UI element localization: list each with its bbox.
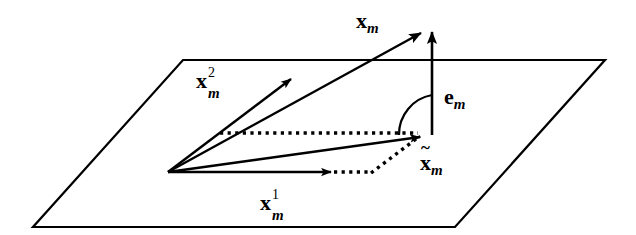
label-x-tilde-m-subscript: m (431, 162, 443, 178)
label-x-m-1-subscript: m (272, 208, 284, 223)
label-x-m-1-base: x (260, 190, 271, 215)
label-x-m-subscript: m (367, 20, 379, 36)
label-e-m-base: e (444, 84, 454, 109)
label-x-m-base: x (356, 8, 367, 33)
label-x-tilde-m: ~xm (420, 152, 443, 174)
label-x-tilde-m-wrap: ~x (420, 152, 431, 174)
vector-diagram-canvas (0, 0, 636, 235)
label-x-m-2-superscript: 2 (208, 66, 215, 80)
label-x-m-1: x1m (260, 192, 271, 214)
label-x-m-2-base: x (196, 68, 207, 93)
subspace-plane (33, 60, 605, 227)
label-x-m-2-subscript: m (208, 86, 220, 101)
x-m-vector (168, 33, 421, 172)
label-x-m: xm (356, 10, 379, 32)
vector-projection-figure: xm x2m x1m em ~xm (0, 0, 636, 235)
right-angle-arc (399, 95, 432, 135)
tilde-accent-icon: ~ (421, 139, 430, 156)
label-e-m: em (444, 86, 465, 108)
label-x-m-2: x2m (196, 70, 207, 92)
label-x-m-1-superscript: 1 (272, 188, 279, 202)
label-e-m-subscript: m (454, 96, 466, 112)
